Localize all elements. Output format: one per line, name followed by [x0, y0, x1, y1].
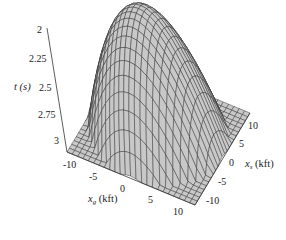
- z-axis-title-text: t (s): [14, 81, 31, 92]
- surface-cell: [129, 131, 135, 156]
- surface-cell: [125, 47, 131, 62]
- surface-cell: [119, 75, 124, 92]
- y-axis-title-unit: (kft): [252, 158, 273, 169]
- surface-cell: [129, 93, 135, 114]
- z-tick-label: 3: [54, 136, 59, 146]
- y-tick-label: 5: [239, 139, 244, 149]
- surface-cell: [124, 92, 129, 112]
- surface-cell: [114, 130, 119, 154]
- surface-cell: [119, 130, 125, 152]
- surface-cell: [114, 92, 119, 112]
- y-tick-label: 0: [229, 158, 234, 168]
- surface-cell: [110, 132, 115, 157]
- surface-cell: [124, 130, 130, 153]
- x-tick-label: 10: [173, 207, 183, 217]
- x-axis-title-unit: (kft): [96, 193, 117, 204]
- z-tick-label: 2: [37, 25, 42, 35]
- surface-cell: [119, 92, 124, 111]
- surface-cell: [114, 110, 119, 132]
- surface-cell: [124, 61, 130, 77]
- x-tick-label: -10: [63, 160, 76, 170]
- x-axis-title: xg (kft): [88, 194, 117, 207]
- y-tick-label: -5: [218, 177, 226, 187]
- x-tick-label: 0: [120, 184, 125, 194]
- surface-cell: [129, 111, 135, 134]
- surface-cell: [114, 61, 119, 78]
- x-tick-label: -5: [89, 172, 97, 182]
- y-tick-label: -10: [206, 196, 219, 206]
- surface-cell: [129, 77, 135, 97]
- y-tick-label: 10: [248, 121, 258, 131]
- z-tick-label: 2.5: [39, 83, 52, 93]
- surface-cell: [119, 61, 125, 76]
- surface-cell: [110, 112, 115, 136]
- surface-cell: [124, 110, 130, 131]
- y-axis-title: xs (kft): [245, 159, 274, 172]
- z-axis-title: t (s): [14, 82, 31, 92]
- z-tick-label: 2.25: [29, 54, 47, 64]
- surface-cell: [119, 110, 124, 130]
- surface-cell: [120, 47, 126, 60]
- surface-cell: [124, 75, 129, 93]
- surface-cell: [114, 76, 119, 95]
- z-tick-label: 2.75: [38, 110, 56, 120]
- x-tick-label: 5: [148, 195, 153, 205]
